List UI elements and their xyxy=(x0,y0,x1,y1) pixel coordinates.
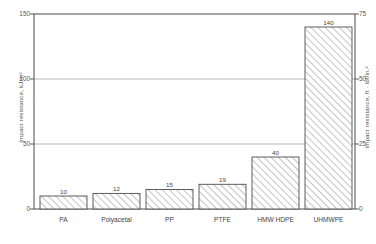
x-axis-label-polyacetal: Polyacetal xyxy=(93,216,140,223)
bar-hmw-hdpe xyxy=(252,157,299,209)
y-axis-right-title: Impact resistance, ft · lbf/in.² xyxy=(363,38,370,178)
y-axis-left-title: Impact resistance, kJ/m² xyxy=(17,38,24,178)
bar-polyacetal xyxy=(93,193,140,209)
x-axis-label-pa: PA xyxy=(40,216,87,223)
bar-value-ptfe: 19 xyxy=(199,176,246,183)
x-axis-label-ptfe: PTFE xyxy=(199,216,246,223)
y-axis-right-tick-25: 25 xyxy=(359,140,376,147)
impact-resistance-bar-chart: Impact resistance, kJ/m² Impact resistan… xyxy=(0,0,376,244)
y-axis-left-tick-100: 100 xyxy=(4,75,30,82)
bar-value-hmw-hdpe: 40 xyxy=(252,149,299,156)
y-axis-right-tick-0: 0 xyxy=(359,205,376,212)
bar-value-pp: 15 xyxy=(146,181,193,188)
chart-plot-area xyxy=(0,0,376,244)
y-axis-right-tick-50: 50 xyxy=(359,75,376,82)
bar-value-uhmwpe: 140 xyxy=(305,19,352,26)
left-axis-ticks xyxy=(30,14,34,209)
bar-value-polyacetal: 12 xyxy=(93,185,140,192)
y-axis-left-tick-150: 150 xyxy=(4,10,30,17)
y-axis-right-tick-75: 75 xyxy=(359,10,376,17)
bar-pp xyxy=(146,190,193,210)
x-axis-label-pp: PP xyxy=(146,216,193,223)
x-axis-label-hmw-hdpe: HMW HDPE xyxy=(250,216,301,223)
right-axis-ticks xyxy=(355,14,359,209)
y-axis-left-tick-50: 50 xyxy=(4,140,30,147)
bar-ptfe xyxy=(199,184,246,209)
bar-uhmwpe xyxy=(305,27,352,209)
x-axis-label-uhmwpe: UHMWPE xyxy=(303,216,354,223)
bar-pa xyxy=(40,196,87,209)
bar-series xyxy=(40,27,352,209)
y-axis-left-tick-0: 0 xyxy=(4,205,30,212)
bar-value-pa: 10 xyxy=(40,188,87,195)
